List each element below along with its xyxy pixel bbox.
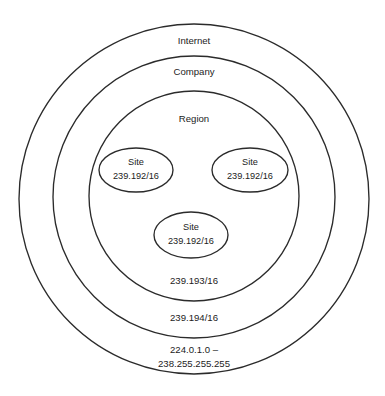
region-ring-label: Region: [179, 113, 209, 124]
site-left-name: Site: [128, 157, 144, 167]
site-bottom-name: Site: [183, 222, 199, 232]
site-left-ellipse: [99, 148, 173, 192]
company-ring-circle: [53, 56, 335, 338]
region-range-label: 239.193/16: [170, 275, 218, 286]
site-right-ellipse: [212, 148, 288, 192]
company-range-label: 239.194/16: [170, 312, 218, 323]
internet-range-label-line2: 238.255.255.255: [158, 358, 230, 369]
company-ring-label: Company: [173, 66, 214, 77]
site-bottom-ellipse: [154, 212, 228, 258]
internet-ring-label: Internet: [178, 35, 211, 46]
scope-diagram-canvas: Internet Company Region Site 239.192/16 …: [0, 0, 385, 396]
site-right-name: Site: [242, 157, 258, 167]
site-left-address: 239.192/16: [113, 171, 159, 181]
scope-diagram: Internet Company Region Site 239.192/16 …: [0, 0, 385, 396]
site-right-address: 239.192/16: [227, 171, 273, 181]
internet-range-label-line1: 224.0.1.0 –: [170, 344, 219, 355]
site-bottom-address: 239.192/16: [168, 236, 214, 246]
